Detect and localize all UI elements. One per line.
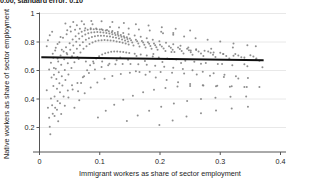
scatter-point bbox=[114, 34, 116, 36]
scatter-point bbox=[176, 86, 178, 88]
scatter-point bbox=[198, 51, 200, 53]
scatter-point bbox=[69, 42, 71, 44]
scatter-point bbox=[106, 35, 108, 37]
scatter-point bbox=[61, 49, 63, 51]
scatter-point bbox=[223, 74, 225, 76]
x-tick-label: 0.2 bbox=[155, 157, 165, 166]
scatter-point bbox=[243, 57, 245, 59]
scatter-point bbox=[62, 37, 64, 39]
scatter-point bbox=[140, 36, 142, 38]
scatter-point bbox=[63, 51, 65, 53]
scatter-point bbox=[130, 39, 132, 41]
scatter-point bbox=[177, 47, 179, 49]
scatter-point bbox=[195, 48, 197, 50]
scatter-point bbox=[129, 37, 131, 39]
scatter-point bbox=[163, 47, 165, 49]
scatter-point bbox=[61, 84, 63, 86]
scatter-point bbox=[117, 31, 119, 33]
scatter-point bbox=[162, 32, 164, 34]
scatter-point bbox=[187, 46, 189, 48]
scatter-point bbox=[200, 98, 202, 100]
scatter-point bbox=[90, 86, 92, 88]
scatter-point bbox=[66, 52, 68, 54]
scatter-point bbox=[129, 63, 131, 65]
scatter-point bbox=[229, 86, 231, 88]
scatter-point bbox=[123, 22, 125, 24]
scatter-point bbox=[190, 51, 192, 53]
scatter-point bbox=[189, 29, 191, 31]
scatter-point bbox=[108, 63, 110, 65]
scatter-point bbox=[60, 64, 62, 66]
scatter-point bbox=[93, 28, 95, 30]
scatter-points-group bbox=[46, 20, 264, 135]
scatter-point bbox=[140, 54, 142, 56]
scatter-point bbox=[107, 51, 109, 53]
scatter-point bbox=[164, 87, 166, 89]
scatter-point bbox=[247, 77, 249, 79]
scatter-point bbox=[120, 73, 122, 75]
scatter-point bbox=[154, 44, 156, 46]
scatter-point bbox=[141, 40, 143, 42]
scatter-point bbox=[86, 69, 88, 71]
scatter-point bbox=[90, 27, 92, 29]
scatter-point bbox=[160, 71, 162, 73]
scatter-point bbox=[99, 29, 101, 31]
scatter-point bbox=[213, 72, 215, 74]
scatter-point bbox=[67, 73, 69, 75]
scatter-point bbox=[181, 50, 183, 52]
scatter-point bbox=[177, 81, 179, 83]
scatter-point bbox=[111, 75, 113, 77]
scatter-point bbox=[154, 65, 156, 67]
scatter-point bbox=[200, 53, 202, 55]
scatter-point bbox=[214, 97, 216, 99]
scatter-point bbox=[189, 83, 191, 85]
scatter-point bbox=[81, 31, 83, 33]
scatter-point bbox=[153, 89, 155, 91]
scatter-point bbox=[48, 117, 50, 119]
scatter-point bbox=[104, 78, 106, 80]
scatter-point bbox=[87, 29, 89, 31]
scatter-point bbox=[135, 70, 137, 72]
scatter-point bbox=[155, 76, 157, 78]
scatter-point bbox=[49, 133, 51, 135]
scatter-point bbox=[61, 75, 63, 77]
scatter-point bbox=[192, 54, 194, 56]
scatter-point bbox=[132, 44, 134, 46]
scatter-point bbox=[114, 32, 116, 34]
scatter-point bbox=[104, 52, 106, 54]
scatter-point bbox=[77, 90, 79, 92]
scatter-point bbox=[219, 52, 221, 54]
scatter-point bbox=[158, 124, 160, 126]
scatter-point bbox=[84, 34, 86, 36]
scatter-point bbox=[179, 45, 181, 47]
scatter-point bbox=[127, 40, 129, 42]
scatter-point bbox=[84, 92, 86, 94]
scatter-point bbox=[54, 115, 56, 117]
scatter-point bbox=[145, 74, 147, 76]
scatter-point bbox=[88, 37, 90, 39]
scatter-point bbox=[107, 39, 109, 41]
scatter-point bbox=[123, 35, 125, 37]
scatter-point bbox=[116, 40, 118, 42]
scatter-point bbox=[249, 54, 251, 56]
scatter-point bbox=[91, 36, 93, 38]
scatter-point bbox=[136, 40, 138, 42]
scatter-point bbox=[76, 82, 78, 84]
scatter-point bbox=[83, 23, 85, 25]
scatter-point bbox=[72, 89, 74, 91]
scatter-point bbox=[92, 61, 94, 63]
scatter-point bbox=[108, 32, 110, 34]
scatter-point bbox=[64, 105, 66, 107]
scatter-point bbox=[69, 49, 71, 51]
scatter-point bbox=[116, 59, 118, 61]
scatter-point bbox=[145, 47, 147, 49]
scatter-point bbox=[79, 44, 81, 46]
scatter-point bbox=[58, 82, 60, 84]
scatter-point bbox=[215, 85, 217, 87]
scatter-point bbox=[258, 86, 260, 88]
scatter-point bbox=[110, 51, 112, 53]
scatter-point bbox=[165, 42, 167, 44]
scatter-point bbox=[49, 126, 51, 128]
scatter-point bbox=[69, 26, 71, 28]
scatter-point bbox=[51, 31, 53, 33]
